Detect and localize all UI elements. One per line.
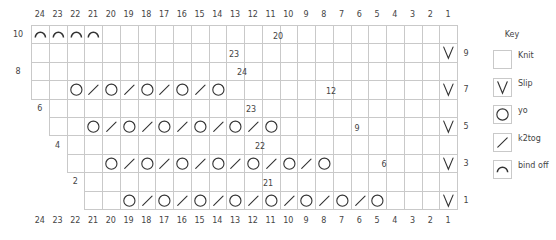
- yo-icon: [156, 192, 173, 209]
- k2tog-icon: [210, 192, 227, 209]
- column-number-bottom: 5: [375, 216, 380, 225]
- stitch-count-annotation: 9: [354, 124, 359, 133]
- stitch-cell-knit: [386, 99, 405, 118]
- row-number: 6: [37, 103, 42, 112]
- k2tog-icon: [85, 81, 102, 98]
- stitch-cell-knit: [84, 154, 103, 173]
- stitch-cell-knit: [280, 43, 299, 62]
- stitch-cell-knit: [209, 43, 228, 62]
- stitch-cell-knit: [404, 172, 423, 191]
- k2tog-icon: [139, 192, 156, 209]
- column-number-top: 16: [177, 10, 187, 19]
- column-number-bottom: 24: [35, 216, 45, 225]
- stitch-cell-knit: [209, 135, 228, 154]
- k2tog-icon: [174, 118, 191, 135]
- stitch-cell-knit: [226, 80, 245, 99]
- stitch-cell-knit: [351, 117, 370, 136]
- stitch-cell-knit: [333, 117, 352, 136]
- column-number-bottom: 8: [321, 216, 326, 225]
- column-number-bottom: 15: [195, 216, 205, 225]
- column-number-top: 24: [35, 10, 45, 19]
- stitch-cell-knit: [102, 172, 121, 191]
- k2tog-icon: [174, 192, 191, 209]
- row-number: 3: [463, 159, 468, 168]
- stitch-cell-knit: [297, 62, 316, 81]
- stitch-cell-yo: [191, 117, 210, 136]
- column-number-bottom: 2: [428, 216, 433, 225]
- column-number-top: 2: [428, 10, 433, 19]
- stitch-cell-knit: [297, 172, 316, 191]
- k2tog-icon: [156, 155, 173, 172]
- column-number-bottom: 20: [106, 216, 116, 225]
- knitting-chart: 2424232322222121202019191818171716161515…: [0, 0, 556, 240]
- stitch-cell-slip: [439, 80, 458, 99]
- stitch-cell-knit: [244, 43, 263, 62]
- stitch-cell-knit: [155, 99, 174, 118]
- stitch-cell-knit: [173, 25, 192, 44]
- stitch-cell-knit: [422, 191, 441, 210]
- stitch-cell-knit: [333, 99, 352, 118]
- stitch-cell-knit: [120, 99, 139, 118]
- k2tog-icon: [103, 118, 120, 135]
- stitch-cell-knit: [297, 25, 316, 44]
- stitch-cell-knit: [226, 99, 245, 118]
- stitch-cell-knit: [368, 99, 387, 118]
- stitch-cell-knit: [31, 80, 50, 99]
- stitch-cell-yo: [120, 191, 139, 210]
- key-label-knit: Knit: [518, 51, 534, 60]
- stitch-cell-yo: [102, 80, 121, 99]
- stitch-cell-knit: [49, 62, 68, 81]
- row-number: 1: [463, 195, 468, 204]
- column-number-top: 3: [410, 10, 415, 19]
- stitch-cell-knit: [31, 43, 50, 62]
- stitch-cell-knit: [368, 62, 387, 81]
- stitch-cell-yo: [138, 154, 157, 173]
- stitch-cell-knit: [280, 172, 299, 191]
- stitch-cell-yo: [138, 80, 157, 99]
- stitch-cell-knit: [84, 99, 103, 118]
- stitch-cell-knit: [209, 62, 228, 81]
- slip-icon: [440, 81, 457, 98]
- stitch-cell-knit: [315, 99, 334, 118]
- stitch-cell-knit: [138, 99, 157, 118]
- stitch-cell-k2tog: [173, 191, 192, 210]
- stitch-count-annotation: 22: [255, 142, 265, 151]
- stitch-cell-knit: [191, 99, 210, 118]
- row-number: 5: [463, 122, 468, 131]
- slip-icon: [440, 155, 457, 172]
- k2tog-icon: [245, 118, 262, 135]
- stitch-cell-yo: [333, 191, 352, 210]
- column-number-bottom: 10: [283, 216, 293, 225]
- stitch-cell-knit: [120, 172, 139, 191]
- stitch-cell-knit: [422, 154, 441, 173]
- key-label-bind-off: bind off: [518, 161, 548, 170]
- column-number-top: 11: [266, 10, 276, 19]
- key-swatch-k2tog: [493, 133, 512, 152]
- stitch-cell-knit: [226, 172, 245, 191]
- stitch-cell-k2tog: [226, 154, 245, 173]
- stitch-cell-knit: [31, 62, 50, 81]
- stitch-cell-knit: [368, 43, 387, 62]
- row-number: 9: [463, 48, 468, 57]
- stitch-cell-knit: [67, 117, 86, 136]
- column-number-top: 20: [106, 10, 116, 19]
- key-label-slip: Slip: [518, 79, 533, 88]
- stitch-cell-knit: [297, 43, 316, 62]
- stitch-cell-knit: [191, 62, 210, 81]
- k2tog-icon: [245, 192, 262, 209]
- stitch-cell-knit: [280, 99, 299, 118]
- stitch-cell-bind-off: [67, 25, 86, 44]
- column-number-bottom: 14: [212, 216, 222, 225]
- stitch-cell-knit: [138, 135, 157, 154]
- stitch-cell-knit: [422, 172, 441, 191]
- yo-icon: [369, 192, 386, 209]
- stitch-cell-knit: [138, 43, 157, 62]
- key-swatch-knit: [493, 50, 512, 69]
- stitch-cell-knit: [209, 25, 228, 44]
- yo-icon: [103, 81, 120, 98]
- stitch-cell-knit: [386, 154, 405, 173]
- stitch-cell-bind-off: [84, 25, 103, 44]
- key-swatch-bind-off: [493, 160, 512, 179]
- stitch-cell-knit: [262, 43, 281, 62]
- stitch-cell-knit: [439, 172, 458, 191]
